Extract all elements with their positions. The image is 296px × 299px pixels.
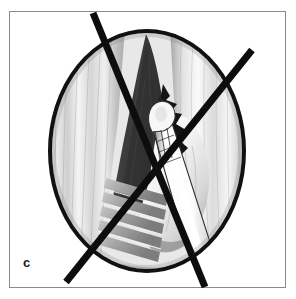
illustration-canvas xyxy=(0,0,296,299)
panel-label: c xyxy=(23,256,30,270)
instrument-tip-shade xyxy=(155,107,167,122)
figure-panel: c xyxy=(0,0,296,299)
